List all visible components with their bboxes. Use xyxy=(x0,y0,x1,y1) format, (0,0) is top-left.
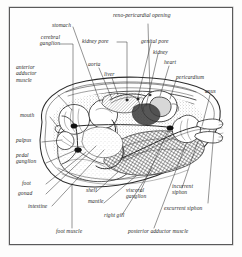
label-foot-muscle: foot muscle xyxy=(56,228,82,234)
label-liver: liver xyxy=(104,71,115,77)
label-pedal-ganglion: pedal ganglion xyxy=(16,152,36,165)
label-excurrent-siphon: excurrent siphon xyxy=(164,205,202,211)
label-mantle: mantle xyxy=(88,198,104,204)
label-kidney-pore: kidney pore xyxy=(82,38,109,44)
label-stomach: stomach xyxy=(52,22,71,28)
label-right-gill: right gill xyxy=(104,212,124,218)
label-visceral-ganglion: visceral ganglion xyxy=(126,187,146,200)
label-anus: anus xyxy=(205,88,216,94)
label-cerebral-ganglion: cerebral ganglion xyxy=(10,34,60,47)
label-kidney: kidney xyxy=(153,49,168,55)
label-mouth: mouth xyxy=(20,112,34,118)
label-incurrent-siphon: incurrent siphon xyxy=(172,183,193,196)
label-anterior-adductor-muscle: anterior adductor muscle xyxy=(16,64,37,83)
label-intestine: intestine xyxy=(28,203,47,209)
label-foot: foot xyxy=(22,180,31,186)
label-pericardium: pericardium xyxy=(176,74,204,80)
label-heart: heart xyxy=(164,59,176,65)
label-shell: shell xyxy=(86,187,97,193)
label-palpus: palpus xyxy=(16,137,31,143)
label-aorta: aorta xyxy=(88,61,100,67)
leader-genital-pore xyxy=(138,43,151,97)
label-genital-pore: genital pore xyxy=(141,38,169,44)
anatomical-figure: stomach reno-pericardial opening cerebra… xyxy=(0,0,242,257)
leader-kidney-pore xyxy=(117,42,127,98)
label-gonad: gonad xyxy=(18,190,32,196)
label-posterior-adductor-muscle: posterior adductor muscle xyxy=(128,228,188,234)
label-reno-pericardial-opening: reno-pericardial opening xyxy=(113,12,171,18)
